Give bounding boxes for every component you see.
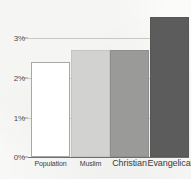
bar-population [31,62,70,157]
ytick-label-3pct: 3% [1,34,25,43]
xtick-label-population: Population [29,159,72,169]
ytick-label-0pct: 0% [1,153,25,162]
ytick-label-1pct: 1% [1,114,25,123]
bar-christian [110,50,149,157]
xtick-label-evangelical: Evangelical [145,158,191,168]
bar-evangelical [150,17,189,157]
ytick-label-2pct: 2% [1,74,25,83]
bar-muslim [71,50,110,157]
bar-chart: 3% 2% 1% 0% Population Muslim Christian … [0,0,191,179]
plot-area: 3% 2% 1% 0% Population Muslim Christian … [0,0,191,179]
